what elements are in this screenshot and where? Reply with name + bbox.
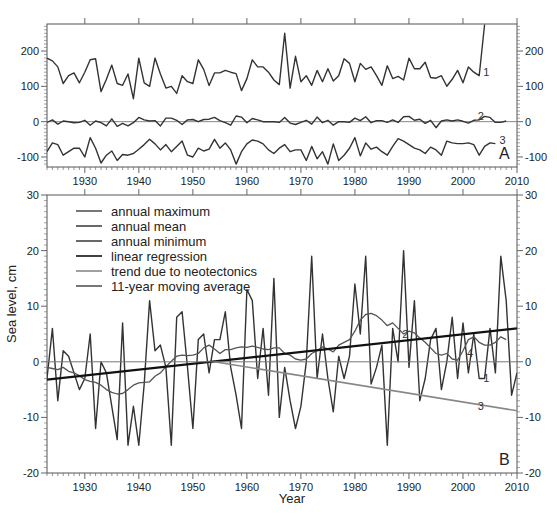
x-tick-label: 1950 xyxy=(181,481,205,493)
y-tick-label-left: 20 xyxy=(27,245,39,257)
panel-b: 193019401950196019701980199020002010-20-… xyxy=(4,189,541,506)
panel-letter: A xyxy=(499,145,510,162)
x-tick-label: 2000 xyxy=(451,481,475,493)
y-tick-label-left: -100 xyxy=(17,151,39,163)
y-tick-label-left: 0 xyxy=(33,356,39,368)
series-number-label: 1 xyxy=(483,372,489,384)
plot-frame xyxy=(47,24,517,167)
series-number-label: 2 xyxy=(478,110,484,122)
y-tick-label-left: 100 xyxy=(21,80,39,92)
y-tick-label-right: -10 xyxy=(525,411,541,423)
y-tick-label-right: 100 xyxy=(525,80,543,92)
series-line-annual-minimum xyxy=(47,138,495,165)
y-axis-title: Sea level, cm xyxy=(4,265,19,343)
legend-label: annual minimum xyxy=(111,234,206,249)
y-tick-label-left: 200 xyxy=(21,45,39,57)
legend-label: annual maximum xyxy=(111,204,210,219)
series-number-label: 4 xyxy=(467,347,473,359)
y-tick-label-right: 10 xyxy=(525,300,537,312)
legend-label: annual mean xyxy=(111,219,186,234)
x-tick-label: 2010 xyxy=(505,175,529,187)
series-number-label: 3 xyxy=(499,134,505,146)
y-tick-label-right: 0 xyxy=(525,356,531,368)
legend-label: trend due to neotectonics xyxy=(111,264,257,279)
series-line-trend-due-to-neotectonics xyxy=(215,362,518,411)
y-tick-label-right: 200 xyxy=(525,45,543,57)
panel-a: 193019401950196019701980199020002010-100… xyxy=(17,18,547,187)
series-line-annual-maximum xyxy=(47,25,485,99)
x-tick-label: 1940 xyxy=(127,481,151,493)
y-tick-label-right: 20 xyxy=(525,245,537,257)
x-tick-label: 1950 xyxy=(181,175,205,187)
sea-level-figure: 193019401950196019701980199020002010-100… xyxy=(0,0,557,521)
series-number-label: 1 xyxy=(483,66,489,78)
x-tick-label: 1960 xyxy=(235,175,259,187)
x-tick-label: 1990 xyxy=(397,175,421,187)
y-tick-label-right: -100 xyxy=(525,151,547,163)
plot-area xyxy=(47,25,517,165)
x-tick-label: 2010 xyxy=(505,481,529,493)
y-tick-label-left: -20 xyxy=(23,467,39,479)
x-tick-label: 1930 xyxy=(73,175,97,187)
x-tick-label: 1990 xyxy=(397,481,421,493)
y-tick-label-left: 10 xyxy=(27,300,39,312)
y-tick-label-right: -20 xyxy=(525,467,541,479)
y-tick-label-left: 0 xyxy=(33,116,39,128)
x-tick-label: 1980 xyxy=(343,175,367,187)
series-number-label: 3 xyxy=(478,400,484,412)
x-tick-label: 1970 xyxy=(289,175,313,187)
legend-label: linear regression xyxy=(111,249,207,264)
series-number-label: 2 xyxy=(402,328,408,340)
legend-label: 11-year moving average xyxy=(111,279,250,294)
x-tick-label: 1930 xyxy=(73,481,97,493)
y-tick-label-left: -10 xyxy=(23,411,39,423)
y-tick-label-right: 30 xyxy=(525,189,537,201)
x-tick-label: 1940 xyxy=(127,175,151,187)
y-tick-label-right: 0 xyxy=(525,116,531,128)
x-tick-label: 1980 xyxy=(343,481,367,493)
panel-letter: B xyxy=(499,451,510,468)
x-axis-title: Year xyxy=(279,491,306,506)
x-tick-label: 1960 xyxy=(235,481,259,493)
x-tick-label: 2000 xyxy=(451,175,475,187)
legend: annual maximumannual meanannual minimuml… xyxy=(76,204,257,294)
y-tick-label-left: 30 xyxy=(27,189,39,201)
